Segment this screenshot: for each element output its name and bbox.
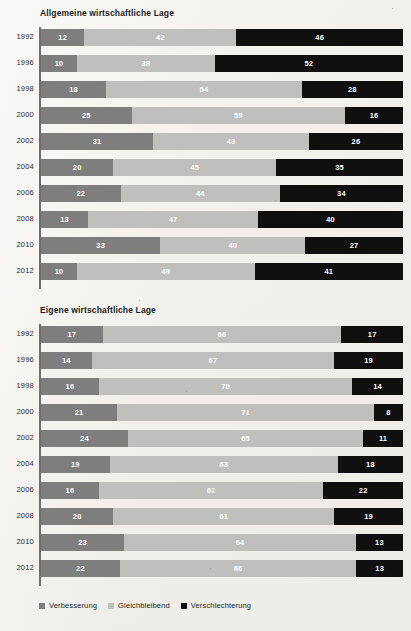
chart-title: Allgemeine wirtschaftliche Lage [40,8,174,18]
bar-segment-verbesserung: 22 [41,560,120,577]
stacked-bar: 226613 [41,560,403,577]
legend-swatch-icon [39,603,45,609]
bar-segment-verschlechterung: 22 [323,482,403,499]
stacked-bar: 124246 [41,29,403,46]
bar-segment-verschlechterung: 52 [215,55,403,72]
stacked-bar: 104941 [41,263,403,280]
bar-segment-verbesserung: 31 [41,133,153,150]
year-axis-label: 2012 [0,266,34,275]
stacked-bar: 166222 [41,482,403,499]
bar-segment-verschlechterung: 14 [352,378,403,395]
bar-segment-gleichbleibend: 38 [77,55,215,72]
bar-segment-verbesserung: 25 [41,107,132,124]
legend-label: Gleichbleibend [118,601,170,610]
bar-segment-gleichbleibend: 49 [77,263,254,280]
bar-segment-verbesserung: 16 [41,482,99,499]
bar-row: 2008134740 [0,211,411,228]
chart-legend: VerbesserungGleichbleibendVerschlechteru… [39,601,251,610]
stacked-bar: 236413 [41,534,403,551]
stacked-bar: 204535 [41,159,403,176]
year-axis-label: 2012 [0,563,34,572]
year-axis-label: 2000 [0,110,34,119]
bar-row: 2004204535 [0,159,411,176]
legend-swatch-icon [181,603,187,609]
bar-segment-verbesserung: 33 [41,237,160,254]
stacked-bar: 224434 [41,185,403,202]
year-axis-label: 2000 [0,407,34,416]
bar-segment-gleichbleibend: 45 [113,159,276,176]
bar-row: 1996103852 [0,55,411,72]
bar-segment-verschlechterung: 17 [341,326,403,343]
year-axis-label: 2010 [0,537,34,546]
bar-row: 2008206119 [0,508,411,525]
bar-segment-gleichbleibend: 47 [88,211,258,228]
bar-row: 2002314326 [0,133,411,150]
year-axis-label: 2006 [0,485,34,494]
bar-segment-gleichbleibend: 40 [160,237,305,254]
stacked-bar: 255916 [41,107,403,124]
stacked-bar: 206119 [41,508,403,525]
legend-swatch-icon [108,603,114,609]
bar-segment-gleichbleibend: 59 [132,107,346,124]
legend-item: Verbesserung [39,601,97,610]
year-axis-label: 2002 [0,136,34,145]
bar-segment-verbesserung: 17 [41,326,103,343]
bar-row: 200021718 [0,404,411,421]
year-axis-label: 2008 [0,214,34,223]
legend-label: Verschlechterung [191,601,251,610]
year-axis-label: 2010 [0,240,34,249]
bar-row: 1998185428 [0,81,411,98]
bar-segment-verbesserung: 12 [41,29,84,46]
bar-segment-verschlechterung: 34 [280,185,403,202]
bar-segment-gleichbleibend: 63 [110,456,338,473]
year-axis-label: 2002 [0,433,34,442]
bar-segment-verschlechterung: 18 [338,456,403,473]
bar-segment-gleichbleibend: 61 [113,508,334,525]
stacked-bar: 21718 [41,404,403,421]
bar-segment-gleichbleibend: 42 [84,29,236,46]
legend-item: Verschlechterung [181,601,251,610]
bar-segment-gleichbleibend: 54 [106,81,301,98]
bar-row: 1998167014 [0,378,411,395]
bar-segment-verschlechterung: 13 [356,534,403,551]
year-axis-label: 1996 [0,355,34,364]
legend-label: Verbesserung [49,601,97,610]
bar-row: 1996146719 [0,352,411,369]
bar-segment-verbesserung: 10 [41,263,77,280]
bar-row: 2010334027 [0,237,411,254]
stacked-bar: 103852 [41,55,403,72]
year-axis-label: 2008 [0,511,34,520]
bar-segment-gleichbleibend: 64 [124,534,356,551]
year-axis-label: 1998 [0,381,34,390]
bar-segment-verschlechterung: 19 [334,508,403,525]
figure-container: Allgemeine wirtschaftliche Lage 19921242… [0,0,411,631]
stacked-bar: 185428 [41,81,403,98]
bar-segment-verschlechterung: 27 [305,237,403,254]
bar-segment-verschlechterung: 41 [255,263,403,280]
stacked-bar: 246511 [41,430,403,447]
bar-row: 2000255916 [0,107,411,124]
bar-segment-verschlechterung: 35 [276,159,403,176]
year-axis-label: 2006 [0,188,34,197]
bar-segment-verbesserung: 16 [41,378,99,395]
bar-segment-verbesserung: 24 [41,430,128,447]
bar-segment-verbesserung: 18 [41,81,106,98]
bar-segment-gleichbleibend: 62 [99,482,323,499]
bar-segment-verbesserung: 14 [41,352,92,369]
scan-speck [392,8,393,9]
bar-segment-verbesserung: 23 [41,534,124,551]
bar-segment-gleichbleibend: 43 [153,133,309,150]
bar-segment-gleichbleibend: 66 [120,560,357,577]
chart-title: Eigene wirtschaftliche Lage [40,305,156,315]
stacked-bar: 134740 [41,211,403,228]
bar-row: 2012104941 [0,263,411,280]
bar-segment-verschlechterung: 13 [356,560,403,577]
year-axis-label: 2004 [0,459,34,468]
bar-segment-gleichbleibend: 44 [121,185,280,202]
bar-segment-gleichbleibend: 70 [99,378,352,395]
stacked-bar: 176617 [41,326,403,343]
bar-segment-verbesserung: 20 [41,508,113,525]
stacked-bar: 196318 [41,456,403,473]
stacked-bar: 167014 [41,378,403,395]
bar-row: 2002246511 [0,430,411,447]
